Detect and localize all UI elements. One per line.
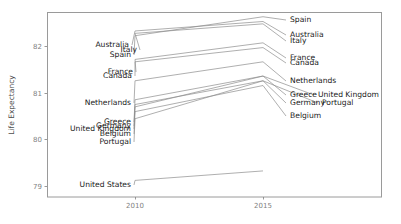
left-label-spain: Spain bbox=[110, 50, 131, 59]
right-label-portugal: Portugal bbox=[322, 98, 353, 107]
right-label-spain: Spain bbox=[290, 15, 311, 24]
left-label-portugal: Portugal bbox=[100, 137, 131, 146]
y-tick-label: 81 bbox=[33, 90, 42, 98]
right-label-germany: Germany bbox=[290, 98, 325, 107]
right-label-netherlands: Netherlands bbox=[290, 76, 336, 85]
right-label-belgium: Belgium bbox=[290, 111, 321, 120]
x-tick-label: 2010 bbox=[126, 202, 144, 210]
left-label-united-states: United States bbox=[80, 180, 131, 189]
right-label-italy: Italy bbox=[290, 36, 307, 45]
slope-chart: 82818079 20102015 Life Expectancy Austra… bbox=[0, 0, 401, 224]
y-tick-label: 79 bbox=[33, 183, 42, 191]
chart-canvas: 82818079 20102015 Life Expectancy Austra… bbox=[0, 0, 401, 224]
left-label-netherlands: Netherlands bbox=[85, 98, 131, 107]
x-tick-label: 2015 bbox=[254, 202, 272, 210]
y-tick-label: 80 bbox=[33, 136, 42, 144]
chart-background bbox=[0, 0, 401, 224]
left-label-canada: Canada bbox=[103, 71, 132, 80]
right-label-canada: Canada bbox=[290, 58, 319, 67]
y-tick-label: 82 bbox=[33, 43, 42, 51]
y-axis-title: Life Expectancy bbox=[7, 75, 16, 135]
